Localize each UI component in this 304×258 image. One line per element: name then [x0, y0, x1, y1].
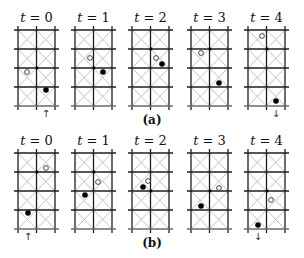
hollow-particle	[88, 56, 93, 61]
hollow-particle	[217, 186, 222, 191]
panel-t4: t = 4↓	[244, 10, 289, 119]
hollow-particle	[44, 166, 49, 171]
filled-particle	[100, 69, 106, 75]
lattice-node-dot	[266, 48, 269, 51]
time-label: t = 0	[20, 133, 53, 148]
subfigure-caption: (b)	[142, 236, 162, 250]
lattice-node-dot	[36, 171, 39, 174]
hollow-particle	[199, 51, 204, 56]
time-label: t = 3	[193, 133, 226, 148]
hollow-particle	[25, 70, 30, 75]
grid-lines	[71, 149, 116, 233]
grid-lines	[187, 26, 232, 110]
filled-particle	[198, 203, 204, 209]
panel-t0: t = 0↑	[14, 10, 59, 119]
arrow-down-icon: ↓	[272, 108, 280, 119]
lattice-node-dot	[209, 48, 212, 51]
hollow-particle	[154, 56, 159, 61]
hollow-particle	[260, 34, 265, 39]
time-label: t = 0	[20, 10, 53, 25]
filled-particle	[255, 222, 261, 228]
subfigure-a: t = 0↑t = 1t = 2t = 3t = 4↓(a)	[14, 10, 289, 127]
subfigure-caption: (a)	[142, 113, 161, 127]
lattice-node-dot	[93, 171, 96, 174]
arrow-up-icon: ↑	[24, 231, 32, 242]
panel-t1: t = 1	[71, 10, 116, 110]
filled-particle	[216, 80, 222, 86]
grid-lines	[244, 26, 289, 110]
subfigure-b: t = 0↑t = 1t = 2t = 3t = 4↓(b)	[14, 133, 289, 250]
filled-particle	[159, 61, 165, 67]
lattice-node-dot	[36, 67, 39, 70]
lattice-node-dot	[209, 190, 212, 193]
filled-particle	[25, 210, 31, 216]
hollow-particle	[269, 198, 274, 203]
time-label: t = 1	[77, 10, 110, 25]
lattice-node-dot	[93, 67, 96, 70]
time-label: t = 1	[77, 133, 110, 148]
lattice-node-dot	[266, 190, 269, 193]
arrow-up-icon: ↑	[42, 108, 50, 119]
filled-particle	[273, 98, 279, 104]
time-label: t = 4	[250, 133, 283, 148]
panel-t2: t = 2	[128, 133, 173, 233]
panel-t2: t = 2	[128, 10, 173, 110]
panel-t1: t = 1	[71, 133, 116, 233]
grid-lines	[128, 26, 173, 110]
filled-particle	[43, 87, 49, 93]
time-label: t = 2	[134, 10, 167, 25]
filled-particle	[82, 192, 88, 198]
panel-t4: t = 4↓	[244, 133, 289, 242]
panel-t0: t = 0↑	[14, 133, 59, 242]
lattice-node-dot	[150, 48, 153, 51]
lattice-diagram: t = 0↑t = 1t = 2t = 3t = 4↓(a)t = 0↑t = …	[0, 0, 304, 258]
lattice-node-dot	[150, 190, 153, 193]
time-label: t = 2	[134, 133, 167, 148]
panel-t3: t = 3	[187, 10, 232, 110]
arrow-down-icon: ↓	[254, 231, 262, 242]
hollow-particle	[146, 179, 151, 184]
grid-lines	[14, 149, 59, 233]
time-label: t = 4	[250, 10, 283, 25]
hollow-particle	[96, 180, 101, 185]
time-label: t = 3	[193, 10, 226, 25]
panel-t3: t = 3	[187, 133, 232, 233]
filled-particle	[140, 184, 146, 190]
